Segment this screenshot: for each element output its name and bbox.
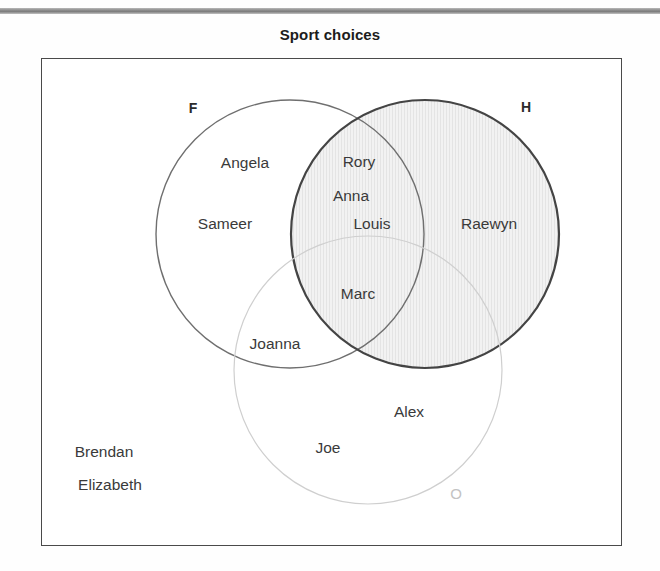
venn-circle-fill-h	[291, 100, 559, 368]
top-rule-divider	[0, 8, 660, 14]
venn-circle-group	[156, 100, 559, 504]
page-title: Sport choices	[0, 26, 660, 43]
venn-diagram	[41, 58, 622, 546]
figure-page: Sport choices FHO AngelaSameerRoryAnnaLo…	[0, 0, 660, 571]
